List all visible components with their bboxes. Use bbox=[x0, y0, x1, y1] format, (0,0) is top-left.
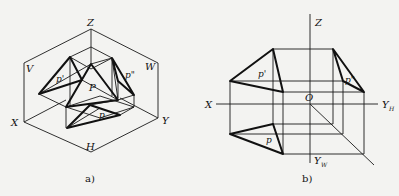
projector bbox=[39, 94, 66, 107]
y-axis-inner bbox=[120, 98, 158, 118]
svg-text:H: H bbox=[388, 105, 395, 112]
caption-a: a) bbox=[85, 173, 95, 184]
label-p-side: p" bbox=[125, 70, 135, 80]
label-z: Z bbox=[86, 17, 95, 28]
label-y: Y bbox=[162, 115, 170, 126]
triangle-p-top bbox=[230, 124, 283, 154]
caption-b: b) bbox=[302, 173, 312, 184]
label-p-side: p" bbox=[345, 75, 355, 85]
label-z: Z bbox=[314, 17, 323, 28]
label-p-top: p bbox=[266, 135, 272, 145]
label-p-front: p' bbox=[258, 69, 266, 79]
label-x: X bbox=[204, 99, 213, 110]
label-o: O bbox=[305, 92, 313, 103]
label-p-top: p bbox=[99, 110, 105, 120]
projector bbox=[118, 95, 134, 100]
label-w: W bbox=[145, 61, 156, 72]
x-axis-inner bbox=[24, 100, 66, 122]
label-p-front: p' bbox=[56, 74, 64, 84]
projector bbox=[82, 80, 118, 100]
figure-a: Z V W X Y H P p' p" p a) bbox=[10, 17, 170, 184]
triangle-p-top bbox=[67, 105, 120, 128]
projection-diagram: Z V W X Y H P p' p" p a) bbox=[0, 0, 399, 196]
label-v: V bbox=[26, 63, 35, 74]
triangle-p-front bbox=[230, 49, 283, 92]
figure-b: Z X O Y H Y W p' p" p b) bbox=[204, 14, 395, 184]
label-yh: Y H bbox=[382, 99, 395, 112]
svg-text:W: W bbox=[321, 161, 328, 168]
label-p: P bbox=[88, 82, 96, 93]
label-x: X bbox=[10, 117, 19, 128]
label-yw: Y W bbox=[314, 155, 328, 168]
label-h: H bbox=[85, 141, 95, 152]
triangle-p-side bbox=[333, 49, 364, 92]
